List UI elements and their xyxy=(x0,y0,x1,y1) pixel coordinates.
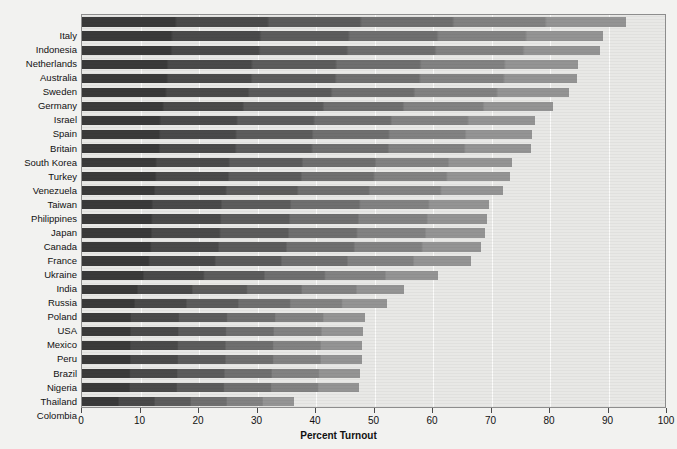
category-label-spain: Spain xyxy=(0,127,82,141)
x-tick-30 xyxy=(257,408,258,413)
bar-indonesia xyxy=(82,31,603,40)
bar-poland xyxy=(82,299,387,308)
bar-row xyxy=(82,338,665,352)
category-label-japan: Japan xyxy=(0,226,82,240)
category-axis-labels: ItalyIndonesiaNetherlandsAustraliaSweden… xyxy=(0,29,82,423)
x-axis-ticks: 0102030405060708090100 xyxy=(81,408,666,448)
category-label-thailand: Thailand xyxy=(0,395,82,409)
bar-row xyxy=(82,85,665,99)
bar-row xyxy=(82,113,665,127)
x-tick-label-30: 30 xyxy=(251,415,262,426)
x-tick-label-70: 70 xyxy=(485,415,496,426)
category-label-brazil: Brazil xyxy=(0,367,82,381)
bar-india xyxy=(82,271,438,280)
bar-ukraine xyxy=(82,256,471,265)
bar-row xyxy=(82,353,665,367)
bar-row xyxy=(82,57,665,71)
x-tick-label-50: 50 xyxy=(368,415,379,426)
bar-row xyxy=(82,367,665,381)
bar-row xyxy=(82,156,665,170)
bar-france xyxy=(82,242,481,251)
bar-mexico xyxy=(82,327,363,336)
bar-rows xyxy=(82,15,665,407)
x-tick-0 xyxy=(81,408,82,413)
category-label-netherlands: Netherlands xyxy=(0,57,82,71)
bar-turkey xyxy=(82,158,512,167)
bar-colombia xyxy=(82,397,294,406)
bar-row xyxy=(82,184,665,198)
x-axis-title: Percent Turnout xyxy=(0,430,677,441)
category-label-france: France xyxy=(0,254,82,268)
plot-area: ItalyIndonesiaNetherlandsAustraliaSweden… xyxy=(81,14,666,408)
bar-row xyxy=(82,128,665,142)
category-label-britain: Britain xyxy=(0,142,82,156)
category-label-colombia: Colombia xyxy=(0,409,82,423)
category-label-turkey: Turkey xyxy=(0,170,82,184)
x-tick-label-60: 60 xyxy=(426,415,437,426)
bar-south-korea xyxy=(82,144,531,153)
horizontal-bar-chart: ItalyIndonesiaNetherlandsAustraliaSweden… xyxy=(0,0,677,449)
bar-brazil xyxy=(82,355,362,364)
bar-sweden xyxy=(82,74,577,83)
category-label-australia: Australia xyxy=(0,71,82,85)
bar-germany xyxy=(82,88,569,97)
bar-row xyxy=(82,282,665,296)
bar-row xyxy=(82,15,665,29)
bar-row xyxy=(82,142,665,156)
bar-russia xyxy=(82,285,404,294)
x-tick-20 xyxy=(198,408,199,413)
category-label-india: India xyxy=(0,282,82,296)
x-tick-10 xyxy=(140,408,141,413)
bar-row xyxy=(82,29,665,43)
x-tick-label-90: 90 xyxy=(602,415,613,426)
bar-japan xyxy=(82,214,487,223)
bar-row xyxy=(82,310,665,324)
bar-spain xyxy=(82,116,535,125)
x-tick-90 xyxy=(608,408,609,413)
bar-israel xyxy=(82,102,553,111)
bar-nigeria xyxy=(82,369,360,378)
x-tick-70 xyxy=(491,408,492,413)
x-tick-80 xyxy=(549,408,550,413)
bar-taiwan xyxy=(82,186,503,195)
category-label-peru: Peru xyxy=(0,352,82,366)
x-tick-50 xyxy=(374,408,375,413)
bar-row xyxy=(82,212,665,226)
bar-philippines xyxy=(82,200,489,209)
bar-row xyxy=(82,296,665,310)
category-label-sweden: Sweden xyxy=(0,85,82,99)
bar-row xyxy=(82,240,665,254)
bar-canada xyxy=(82,228,485,237)
category-label-south-korea: South Korea xyxy=(0,156,82,170)
bar-italy xyxy=(82,17,626,26)
bar-row xyxy=(82,198,665,212)
category-label-germany: Germany xyxy=(0,99,82,113)
x-tick-40 xyxy=(315,408,316,413)
bar-britain xyxy=(82,130,532,139)
bar-row xyxy=(82,268,665,282)
x-tick-label-40: 40 xyxy=(309,415,320,426)
bar-netherlands xyxy=(82,46,600,55)
bar-row xyxy=(82,395,665,409)
x-tick-label-0: 0 xyxy=(78,415,84,426)
bar-peru xyxy=(82,341,362,350)
x-tick-label-80: 80 xyxy=(543,415,554,426)
bar-row xyxy=(82,254,665,268)
category-label-poland: Poland xyxy=(0,310,82,324)
bar-row xyxy=(82,381,665,395)
bar-row xyxy=(82,324,665,338)
bar-row xyxy=(82,170,665,184)
bar-row xyxy=(82,99,665,113)
x-tick-label-20: 20 xyxy=(192,415,203,426)
bar-row xyxy=(82,71,665,85)
x-tick-label-10: 10 xyxy=(134,415,145,426)
bar-venezuela xyxy=(82,172,510,181)
bar-row xyxy=(82,43,665,57)
bar-usa xyxy=(82,313,365,322)
bar-australia xyxy=(82,60,578,69)
bar-row xyxy=(82,226,665,240)
category-label-philippines: Philippines xyxy=(0,212,82,226)
category-label-indonesia: Indonesia xyxy=(0,43,82,57)
category-label-russia: Russia xyxy=(0,296,82,310)
category-label-israel: Israel xyxy=(0,113,82,127)
